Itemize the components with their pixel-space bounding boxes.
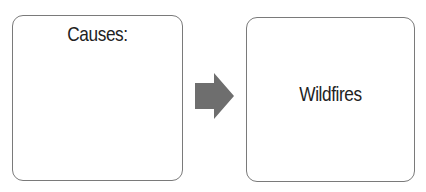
causes-label: Causes: [28, 22, 167, 46]
causes-box: Causes: [12, 15, 183, 181]
wildfires-label: Wildfires [262, 82, 399, 106]
wildfires-box: Wildfires [246, 17, 415, 182]
right-arrow-icon [194, 72, 236, 120]
